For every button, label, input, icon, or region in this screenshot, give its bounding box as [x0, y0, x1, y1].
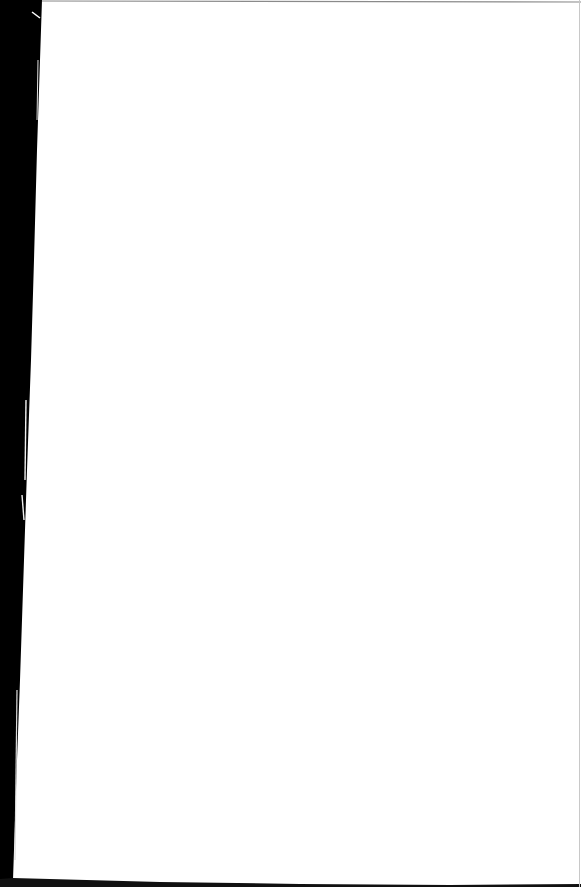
- blank-page-area: [0, 0, 581, 887]
- scanned-page: [0, 0, 581, 887]
